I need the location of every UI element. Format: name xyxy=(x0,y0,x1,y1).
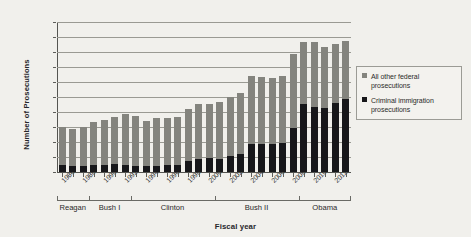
x-tick-mark xyxy=(94,173,95,177)
y-tick-mark xyxy=(53,172,56,173)
bar-1996 xyxy=(164,118,171,172)
y-tick-mark xyxy=(53,127,56,128)
bar-segment-criminal-immigration xyxy=(206,158,213,172)
bar-segment-all-other xyxy=(216,102,223,159)
bracket-divider xyxy=(299,196,300,201)
bar-segment-criminal-immigration xyxy=(269,144,276,172)
bracket-divider xyxy=(350,196,351,201)
bracket-label-bush-i: Bush I xyxy=(89,203,131,212)
bar-1987 xyxy=(69,129,76,173)
bar-segment-criminal-immigration xyxy=(237,154,244,172)
bar-2004 xyxy=(248,76,255,172)
bar-segment-criminal-immigration xyxy=(300,104,307,172)
bar-segment-all-other xyxy=(195,104,202,158)
bar-segment-criminal-immigration xyxy=(174,165,181,172)
bar-1997 xyxy=(174,117,181,173)
x-tick-mark xyxy=(220,173,221,177)
x-tick-mark xyxy=(346,173,347,177)
bar-1989 xyxy=(90,122,97,172)
bar-segment-all-other xyxy=(132,116,139,166)
bar-2011 xyxy=(321,47,328,172)
bracket-label-bush-ii: Bush II xyxy=(215,203,299,212)
x-tick-mark xyxy=(241,173,242,177)
bar-segment-criminal-immigration xyxy=(59,165,66,172)
bar-1995 xyxy=(153,118,160,172)
bracket-divider xyxy=(89,196,90,201)
bar-1994 xyxy=(143,121,150,172)
bar-segment-all-other xyxy=(69,129,76,166)
bar-2006 xyxy=(269,78,276,173)
y-tick-mark xyxy=(53,142,56,143)
bar-2002 xyxy=(227,97,234,172)
bar-segment-criminal-immigration xyxy=(122,165,129,172)
black-square-icon xyxy=(362,97,367,102)
chart-legend: All other federal prosecutions Criminal … xyxy=(356,66,462,120)
y-tick-mark xyxy=(53,37,56,38)
bar-segment-all-other xyxy=(258,77,265,144)
bracket-label-reagan: Reagan xyxy=(57,203,89,212)
bar-segment-criminal-immigration xyxy=(101,165,108,172)
bar-segment-criminal-immigration xyxy=(279,143,286,172)
bar-segment-all-other xyxy=(90,122,97,166)
bracket-baseline xyxy=(57,200,351,201)
bar-segment-all-other xyxy=(269,78,276,144)
bracket-divider xyxy=(57,196,58,201)
bar-segment-criminal-immigration xyxy=(342,99,349,172)
bar-segment-all-other xyxy=(143,121,150,166)
y-tick-mark xyxy=(53,97,56,98)
bar-segment-all-other xyxy=(164,118,171,166)
bar-1990 xyxy=(101,120,108,173)
bar-1993 xyxy=(132,116,139,172)
bar-segment-criminal-immigration xyxy=(143,166,150,172)
y-tick-mark xyxy=(53,82,56,83)
bracket-label-obama: Obama xyxy=(299,203,352,212)
bar-2008 xyxy=(290,54,297,173)
bar-segment-all-other xyxy=(80,127,87,166)
bar-1992 xyxy=(122,114,129,172)
bar-1986 xyxy=(59,127,66,172)
bar-segment-all-other xyxy=(279,76,286,143)
gridline xyxy=(57,22,351,23)
y-tick-mark xyxy=(53,22,56,23)
y-tick-mark xyxy=(53,157,56,158)
bar-2000 xyxy=(206,104,213,172)
bar-segment-criminal-immigration xyxy=(111,164,118,172)
x-tick-mark xyxy=(178,173,179,177)
x-tick-mark xyxy=(73,173,74,177)
bar-segment-all-other xyxy=(185,109,192,161)
bar-2001 xyxy=(216,102,223,172)
bar-segment-criminal-immigration xyxy=(80,166,87,172)
y-tick-mark xyxy=(53,67,56,68)
bar-segment-criminal-immigration xyxy=(258,144,265,172)
bracket-divider xyxy=(131,196,132,201)
bar-segment-criminal-immigration xyxy=(90,165,97,172)
y-tick-mark xyxy=(53,52,56,53)
bar-segment-criminal-immigration xyxy=(248,144,255,172)
bar-2012 xyxy=(332,44,339,172)
legend-item-all-other: All other federal prosecutions xyxy=(362,72,457,90)
bar-2003 xyxy=(237,93,244,173)
x-tick-mark xyxy=(157,173,158,177)
bar-segment-all-other xyxy=(290,54,297,128)
x-tick-mark xyxy=(325,173,326,177)
bar-segment-all-other xyxy=(101,120,108,165)
bar-segment-criminal-immigration xyxy=(132,166,139,172)
legend-label-criminal-immigration: Criminal immigration prosecutions xyxy=(371,96,457,114)
bar-segment-criminal-immigration xyxy=(311,107,318,172)
x-tick-mark xyxy=(283,173,284,177)
bar-1988 xyxy=(80,127,87,172)
bar-segment-all-other xyxy=(300,42,307,104)
bar-segment-all-other xyxy=(227,97,234,156)
bar-segment-criminal-immigration xyxy=(290,128,297,172)
gridline xyxy=(57,37,351,38)
x-tick-mark xyxy=(199,173,200,177)
bar-segment-all-other xyxy=(174,117,181,165)
bar-segment-all-other xyxy=(248,76,255,144)
y-tick-mark xyxy=(53,112,56,113)
bar-segment-criminal-immigration xyxy=(195,159,202,173)
y-axis-title: Number of Prosecutions xyxy=(22,35,31,175)
bracket-label-clinton: Clinton xyxy=(131,203,215,212)
prosecutions-bar-chart: Number of Prosecutions 200,000180,000160… xyxy=(0,0,471,237)
bar-segment-all-other xyxy=(237,93,244,154)
bar-segment-criminal-immigration xyxy=(164,165,171,172)
